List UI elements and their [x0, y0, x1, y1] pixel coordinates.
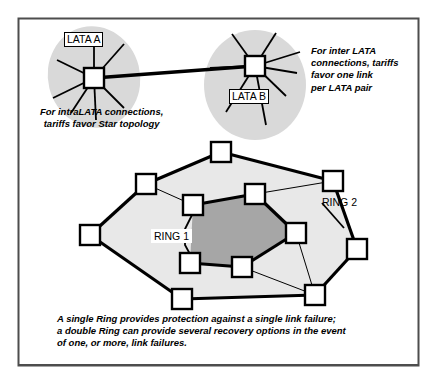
ring1-node [286, 223, 306, 243]
ring1-node [183, 195, 203, 215]
inter-lata-note: For inter LATA connections, tariffs favo… [311, 45, 398, 94]
ring2-node [80, 225, 100, 245]
caption-line-3: of one, or more, link failures. [57, 337, 387, 349]
ring2-node [211, 142, 231, 162]
lata-b-cloud [204, 30, 306, 140]
ring2-node [347, 239, 367, 259]
intra-lata-note: For intraLATA connections, tariffs favor… [40, 106, 163, 130]
lata-b-node [245, 56, 265, 76]
caption-line-2: a double Ring can provide several recove… [57, 325, 387, 337]
ring1-node [180, 253, 200, 273]
lata-a-node [84, 68, 104, 88]
ring2-node [172, 289, 192, 309]
lata-a-label: LATA A [64, 32, 103, 47]
figure-caption: A single Ring provides protection agains… [57, 313, 387, 350]
lata-b-label: LATA B [229, 89, 269, 104]
caption-line-1: A single Ring provides protection agains… [57, 313, 387, 325]
ring2-node [305, 285, 325, 305]
ring2-node [323, 171, 343, 191]
ring1-node [245, 184, 265, 204]
diagram-figure: LATA A LATA B For intraLATA connections,… [0, 0, 438, 384]
ring1-node [232, 257, 252, 277]
ring1-label: RING 1 [151, 229, 192, 243]
ring2-node [136, 174, 156, 194]
ring2-label: RING 2 [320, 195, 359, 209]
